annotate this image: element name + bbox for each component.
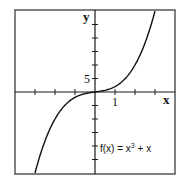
function-annotation: f(x) = x3 + x (100, 142, 151, 154)
x-tick-label-1: 1 (112, 95, 118, 109)
function-plot: y x 1 5 f(x) = x3 + x (0, 0, 184, 186)
function-suffix: + x (135, 143, 151, 154)
y-tick-label-5: 5 (84, 72, 90, 86)
y-axis-label: y (83, 9, 90, 24)
function-prefix: f(x) = x (100, 143, 131, 154)
x-axis-label: x (163, 92, 170, 107)
